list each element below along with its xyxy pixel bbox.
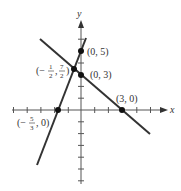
point-intersection xyxy=(71,66,77,72)
svg-text:5: 5 xyxy=(30,115,34,123)
svg-text:(−: (− xyxy=(17,117,26,129)
svg-text:2: 2 xyxy=(49,72,53,80)
point-0-3 xyxy=(78,72,84,78)
y-axis-label: y xyxy=(76,8,82,19)
x-axis: x xyxy=(12,104,175,115)
svg-text:7: 7 xyxy=(60,63,64,71)
svg-text:3: 3 xyxy=(30,124,34,132)
y-axis-arrow-icon xyxy=(78,20,84,28)
coordinate-graph: x y (0, 5) (0, 3) (3, 0) (− 1 2 xyxy=(0,0,181,191)
point-3-0 xyxy=(119,107,125,113)
svg-text:): ) xyxy=(66,65,69,77)
label-point-intersection: (− 1 2 , 7 2 ) xyxy=(36,63,69,80)
svg-text:1: 1 xyxy=(49,63,53,71)
svg-text:2: 2 xyxy=(60,72,64,80)
point-0-5 xyxy=(78,48,84,54)
svg-text:(−: (− xyxy=(36,65,45,77)
label-point-neg5over3-0: (− 5 3 , 0) xyxy=(17,115,49,132)
point-neg5over3-0 xyxy=(55,107,61,113)
svg-text:,: , xyxy=(55,65,58,76)
label-point-3-0: (3, 0) xyxy=(116,93,138,105)
svg-text:, 0): , 0) xyxy=(36,117,49,129)
label-point-0-3: (0, 3) xyxy=(90,69,112,81)
x-axis-label: x xyxy=(169,104,175,115)
y-axis: y xyxy=(76,8,84,184)
x-axis-arrow-icon xyxy=(160,107,168,113)
label-point-0-5: (0, 5) xyxy=(87,46,109,58)
